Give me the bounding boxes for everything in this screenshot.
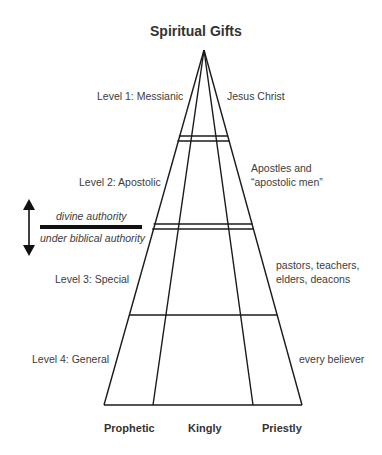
authority-divider-bar [40,225,142,229]
column-priestly: Priestly [262,422,302,434]
level-3-label: Level 3: Special [55,273,129,286]
level-2-label: Level 2: Apostolic [79,176,161,189]
double-headed-arrow-icon [23,199,35,256]
level-3-description-line1: pastors, teachers, [276,259,359,272]
pyramid-right-edge [204,50,302,405]
level-1-description: Jesus Christ [227,90,285,103]
column-kingly: Kingly [188,422,222,434]
pyramid-inner-right [204,50,253,405]
level-4-description: every believer [299,353,364,366]
divine-authority-label: divine authority [56,210,127,223]
pyramid-diagram [0,0,382,455]
under-biblical-authority-label: under biblical authority [40,232,145,245]
level-2-description-line1: Apostles and [251,162,312,175]
pyramid-inner-left [153,50,204,405]
level-4-label: Level 4: General [32,353,109,366]
level-3-description-line2: elders, deacons [276,273,350,286]
column-prophetic: Prophetic [104,422,155,434]
level-1-label: Level 1: Messianic [97,90,183,103]
level-2-description-line2: “apostolic men” [251,176,323,189]
